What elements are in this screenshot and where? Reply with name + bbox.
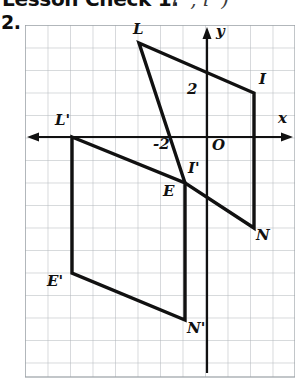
vertex-label-N-prime: N': [187, 321, 205, 336]
vertex-label-E: E: [163, 184, 174, 199]
lesson-check-answer-fragment: l' , l' ): [172, 0, 229, 11]
lesson-check-title: Lesson Check 1.: [2, 0, 179, 11]
graph-svg: [25, 25, 295, 378]
y-tick-label-2: 2: [187, 82, 197, 97]
vertex-label-I: I: [259, 72, 266, 87]
vertex-label-N: N: [256, 228, 270, 243]
y-axis-label: y: [216, 24, 225, 39]
x-axis-label: x: [278, 111, 287, 126]
vertex-label-L-prime: L': [55, 113, 70, 128]
vertex-label-I-prime: I': [188, 161, 200, 176]
x-tick-label-neg2: -2: [153, 137, 170, 152]
worksheet-page: Lesson Check 1. l' , l' ) 2.: [0, 0, 303, 381]
origin-label: O: [212, 138, 225, 153]
page-header: Lesson Check 1. l' , l' ): [0, 0, 303, 13]
vertex-label-E-prime: E': [47, 274, 63, 289]
vertex-label-L: L: [133, 22, 144, 37]
problem-number: 2.: [1, 11, 20, 33]
coordinate-graph: L I N E L' I' N' E' y x O 2 -2: [25, 25, 295, 378]
